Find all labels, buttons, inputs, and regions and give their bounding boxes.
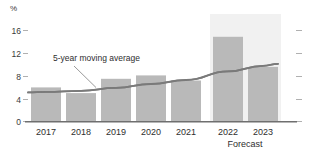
x-tick-label-2019: 2019 xyxy=(106,127,126,137)
x-tick-label-2021: 2021 xyxy=(176,127,196,137)
bar-2019 xyxy=(101,79,131,122)
x-tick-label-2022: 2022 xyxy=(218,127,238,137)
y-axis-ticks-right xyxy=(296,31,302,122)
y-tick-label-0: 0 xyxy=(16,117,21,127)
x-tick-label-2017: 2017 xyxy=(36,127,56,137)
bar-2021 xyxy=(171,81,201,122)
y-tick-label-12: 12 xyxy=(12,49,22,59)
bar-2018 xyxy=(66,93,96,121)
bar-2020 xyxy=(136,75,166,121)
y-tick-label-4: 4 xyxy=(16,95,21,105)
y-axis-unit-label: % xyxy=(10,4,17,13)
y-tick-label-16: 16 xyxy=(12,26,22,36)
y-axis-ticks-left xyxy=(23,31,28,122)
annotation-leader-line xyxy=(74,66,96,88)
x-tick-label-2023: 2023 xyxy=(253,127,273,137)
chart-container: % 16 12 8 4 0 5-year moving average 2017… xyxy=(0,0,310,153)
bar-2023 xyxy=(248,67,278,122)
x-tick-label-2018: 2018 xyxy=(71,127,91,137)
moving-average-bar-chart: % 16 12 8 4 0 5-year moving average 2017… xyxy=(0,0,310,153)
annotation-moving-average-label: 5-year moving average xyxy=(53,53,140,63)
y-tick-label-8: 8 xyxy=(16,72,21,82)
bar-2022 xyxy=(213,37,243,122)
forecast-region-label: Forecast xyxy=(227,139,263,149)
bar-series xyxy=(31,37,278,122)
x-tick-label-2020: 2020 xyxy=(141,127,161,137)
